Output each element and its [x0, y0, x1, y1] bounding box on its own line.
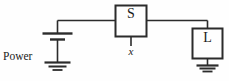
switch-node-label: x — [118, 46, 144, 58]
load-box-label: L — [192, 31, 223, 46]
power-supply-label-line1: Power — [3, 50, 34, 62]
power-supply-label: Power supply — [3, 26, 34, 81]
switch-box-label: S — [115, 7, 147, 22]
circuit-diagram: Power supply S L x — [0, 0, 229, 81]
